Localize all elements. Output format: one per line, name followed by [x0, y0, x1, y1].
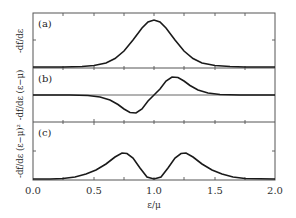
panel-b-label: (b)	[38, 73, 52, 84]
panel-b-curve	[33, 77, 275, 113]
panel-b-ylabel: -df/dε (ε−μ)	[15, 70, 25, 121]
x-tick-label-1: 0.5	[86, 185, 102, 196]
panel-c-curve	[33, 153, 275, 179]
panel-c-label: (c)	[38, 127, 52, 138]
x-tick-label-4: 2.0	[267, 185, 283, 196]
x-tick-label-3: 1.5	[207, 185, 223, 196]
panel-a-curve	[33, 20, 275, 67]
figure: (a) (b) (c) -df/dε -df/dε (ε−μ) -df/dε (…	[0, 0, 296, 218]
panel-c-ylabel: -df/dε (ε−μ)²	[15, 124, 25, 178]
panel-a-label: (a)	[38, 18, 52, 29]
x-tick-label-0: 0.0	[25, 185, 41, 196]
x-tick-label-2: 1.0	[146, 185, 162, 196]
panel-a-ylabel: -df/dε	[15, 28, 25, 53]
plot-frame	[33, 13, 275, 180]
x-axis-label: ε/μ	[147, 200, 161, 210]
